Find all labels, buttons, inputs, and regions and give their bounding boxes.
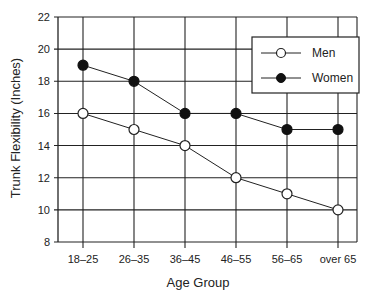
chart-canvas: 810121416182022 18–2526–3536–4546–5556–6…	[0, 0, 369, 296]
line-chart: 810121416182022 18–2526–3536–4546–5556–6…	[0, 0, 369, 296]
filled-circle-icon	[277, 74, 286, 83]
y-tick-label: 22	[38, 11, 50, 23]
x-tick-label: over 65	[320, 253, 357, 265]
y-tick-label: 10	[38, 204, 50, 216]
series-line-men	[83, 113, 338, 209]
x-axis-ticks: 18–2526–3536–4546–5556–65over 65	[68, 253, 357, 265]
filled-circle-icon	[231, 108, 241, 118]
x-tick-label: 36–45	[170, 253, 201, 265]
x-tick-label: 26–35	[119, 253, 150, 265]
filled-circle-icon	[78, 60, 88, 70]
filled-circle-icon	[333, 125, 343, 135]
y-axis-label: Trunk Flexibility (Inches)	[8, 58, 23, 198]
legend-women-label: Women	[312, 71, 353, 85]
x-tick-label: 56–65	[272, 253, 303, 265]
x-tick-label: 18–25	[68, 253, 99, 265]
y-tick-label: 16	[38, 107, 50, 119]
open-circle-icon	[333, 205, 343, 215]
open-circle-icon	[277, 49, 286, 58]
x-tick-label: 46–55	[221, 253, 252, 265]
y-tick-label: 12	[38, 172, 50, 184]
open-circle-icon	[180, 141, 190, 151]
open-circle-icon	[129, 125, 139, 135]
open-circle-icon	[78, 108, 88, 118]
filled-circle-icon	[129, 76, 139, 86]
y-tick-label: 18	[38, 75, 50, 87]
y-tick-label: 20	[38, 43, 50, 55]
legend: Men Women	[252, 37, 359, 93]
y-tick-label: 8	[44, 236, 50, 248]
filled-circle-icon	[180, 108, 190, 118]
y-tick-label: 14	[38, 140, 50, 152]
open-circle-icon	[231, 173, 241, 183]
legend-men-label: Men	[312, 46, 335, 60]
y-axis-ticks: 810121416182022	[38, 11, 50, 248]
x-axis-label: Age Group	[167, 275, 230, 290]
filled-circle-icon	[282, 125, 292, 135]
open-circle-icon	[282, 189, 292, 199]
